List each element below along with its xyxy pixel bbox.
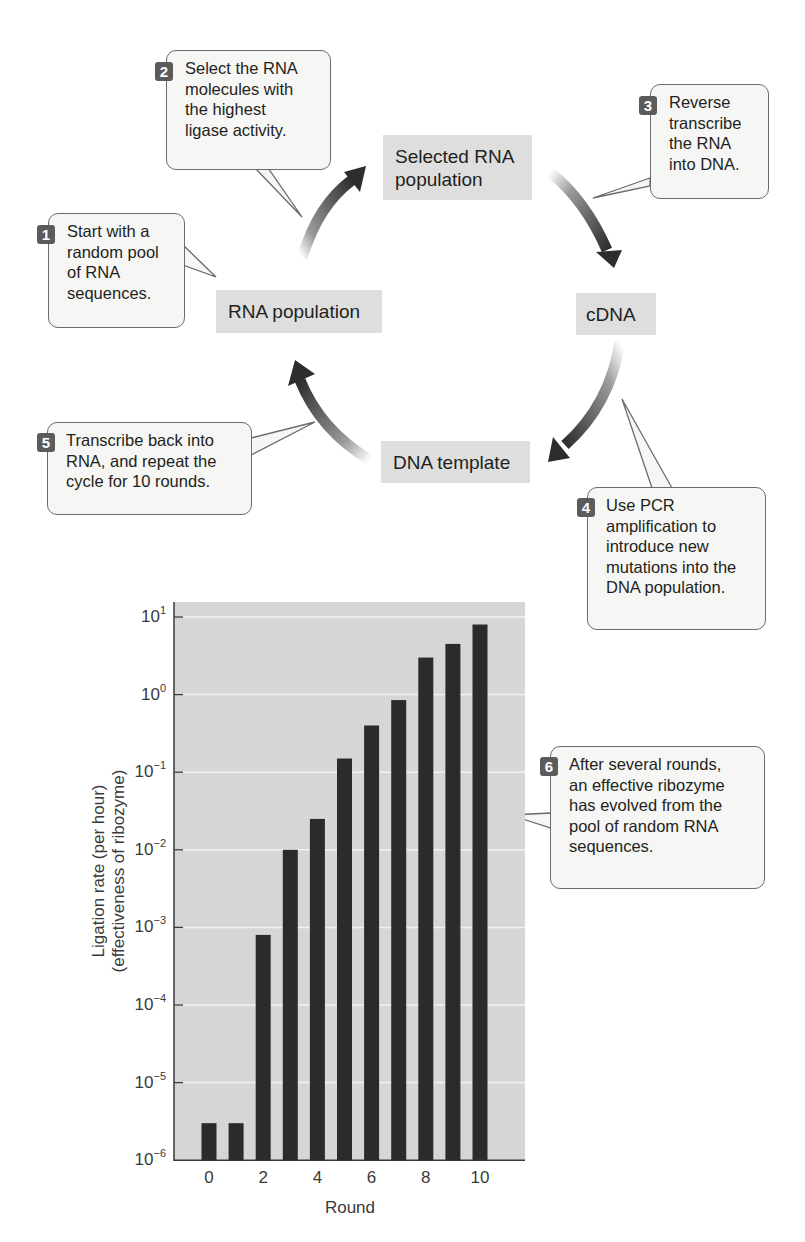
y-tick-label: 10−6 bbox=[106, 1148, 166, 1170]
bar-round-7 bbox=[391, 700, 406, 1160]
y-axis-title-line1: Ligation rate (per hour) bbox=[89, 741, 109, 1001]
x-tick-label: 0 bbox=[189, 1168, 229, 1188]
x-tick-label: 10 bbox=[460, 1168, 500, 1188]
x-tick-label: 2 bbox=[243, 1168, 283, 1188]
x-tick-label: 8 bbox=[406, 1168, 446, 1188]
bar-round-9 bbox=[445, 644, 460, 1160]
bar-round-5 bbox=[337, 759, 352, 1161]
bar-round-3 bbox=[283, 850, 298, 1160]
y-tick-label: 100 bbox=[106, 683, 166, 705]
y-tick-label: 101 bbox=[106, 605, 166, 627]
bar-round-1 bbox=[229, 1123, 244, 1160]
x-axis-title: Round bbox=[300, 1198, 400, 1218]
y-axis-title: Ligation rate (per hour) (effectiveness … bbox=[89, 741, 131, 1001]
bar-round-2 bbox=[256, 935, 271, 1160]
bar-round-0 bbox=[202, 1123, 217, 1160]
bar-round-10 bbox=[473, 625, 488, 1161]
y-tick-label: 10−5 bbox=[106, 1071, 166, 1093]
x-tick-label: 6 bbox=[352, 1168, 392, 1188]
bar-round-4 bbox=[310, 819, 325, 1160]
y-axis-title-line2: (effectiveness of ribozyme) bbox=[109, 741, 129, 1001]
bar-round-8 bbox=[418, 658, 433, 1161]
x-tick-label: 4 bbox=[297, 1168, 337, 1188]
bar-round-6 bbox=[364, 725, 379, 1160]
